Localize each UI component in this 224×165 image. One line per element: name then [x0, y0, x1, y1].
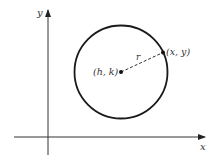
- circle-diagram: y x (h, k) (x, y) r: [0, 0, 224, 165]
- circle-point: [161, 51, 165, 55]
- radius-line: [121, 53, 162, 72]
- center-point: [119, 70, 123, 74]
- radius-label: r: [136, 52, 141, 62]
- x-axis-label: x: [200, 141, 206, 152]
- center-label: (h, k): [93, 66, 119, 77]
- point-label: (x, y): [166, 46, 190, 57]
- y-axis-label: y: [36, 7, 43, 18]
